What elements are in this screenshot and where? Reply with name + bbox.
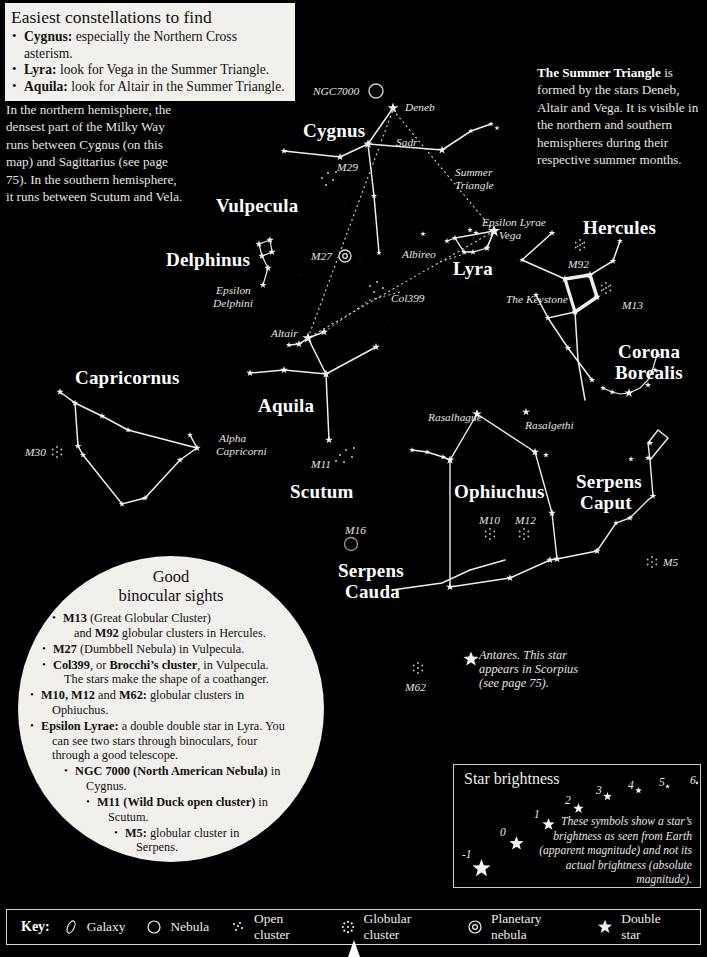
magnitude-star-4: [633, 785, 644, 796]
constellation-name-aquila: Aquila: [258, 395, 314, 416]
magnitude-star-2: [571, 801, 586, 816]
constellation-name-cygnus: Cygnus: [303, 120, 365, 141]
key-item-globular-cluster: Globular cluster: [339, 911, 446, 943]
magnitude-star-6: [693, 779, 701, 787]
magnitude-star-1: [540, 816, 557, 833]
star-label-epsilon: Epsilon: [216, 284, 251, 296]
key-item-open-cluster: Open cluster: [229, 911, 319, 943]
binocular-sights-list: M13 (Great Globular Cluster)and M92 glob…: [18, 611, 324, 855]
key-item-label: Double star: [621, 911, 680, 943]
star-label-rasalgethi: Rasalgethi: [525, 419, 574, 431]
galaxy-icon: [62, 918, 80, 936]
info-box-item-1: Lyra: look for Vega in the Summer Triang…: [11, 62, 289, 79]
magnitude-star-0: [507, 834, 526, 853]
constellation-name-scutum: Scutum: [290, 481, 354, 502]
brightness-title: Star brightness: [464, 770, 560, 788]
easiest-constellations-box: Easiest constellations to find Cygnus: e…: [4, 2, 296, 102]
constellation-name-lyra: Lyra: [453, 258, 493, 279]
open-cluster-icon: [229, 918, 247, 936]
binocular-item-1: M27 (Dumbbell Nebula) in Vulpecula.: [42, 642, 312, 657]
constellation-name-delphinus: Delphinus: [166, 249, 250, 270]
star-label-m92: M92: [568, 258, 589, 270]
star-label-ngc7000: NGC7000: [313, 85, 359, 97]
constellation-name-ophiuchus: Ophiuchus: [454, 481, 545, 502]
star-label-m29: M29: [337, 161, 358, 173]
circle-title-line1: Good: [18, 568, 324, 587]
globular-cluster-icon: [339, 918, 357, 936]
magnitude-label-1: 1: [534, 808, 540, 820]
constellation-name-borealis: Borealis: [615, 362, 683, 383]
brightness-note: These symbols show a star’s brightness a…: [534, 815, 692, 888]
circle-title: Good binocular sights: [18, 556, 324, 605]
binocular-item-0: M13 (Great Globular Cluster)and M92 glob…: [52, 611, 312, 640]
key-item-planetary-nebula: Planetary nebula: [466, 911, 576, 943]
constellation-name-capricornus: Capricornus: [75, 367, 180, 388]
star-label-m27: M27: [311, 250, 332, 262]
key-item-label: Open cluster: [254, 911, 319, 943]
good-binocular-sights-circle: Good binocular sights M13 (Great Globula…: [18, 556, 324, 862]
magnitude-star-5: [663, 782, 672, 791]
info-box-item-0: Cygnus: especially the Northern Cross as…: [11, 29, 289, 62]
constellation-name-cauda: Cauda: [345, 581, 400, 602]
star-label-delphini: Delphini: [213, 297, 253, 309]
star-label-vega: Vega: [499, 229, 521, 241]
star-label-altair: Altair: [271, 327, 298, 339]
star-label-summer: Summer: [455, 166, 492, 178]
circle-title-line2: binocular sights: [18, 587, 324, 606]
info-box-list: Cygnus: especially the Northern Cross as…: [11, 29, 289, 95]
constellation-name-hercules: Hercules: [583, 217, 656, 238]
milky-way-note: In the northern hemisphere, the densest …: [6, 101, 184, 205]
star-label-sadr: Sadr: [396, 136, 418, 148]
summer-triangle-note: The Summer Triangle is formed by the sta…: [537, 64, 705, 168]
magnitude-star-3: [601, 790, 614, 803]
star-label-col399: Col399: [391, 292, 425, 304]
constellation-name-caput: Caput: [580, 492, 632, 513]
key-items: GalaxyNebulaOpen clusterGlobular cluster…: [62, 911, 700, 943]
key-item-label: Planetary nebula: [491, 911, 576, 943]
binocular-item-7: M5: globular cluster inSerpens.: [114, 826, 312, 855]
binocular-item-5: NGC 7000 (North American Nebula) inCygnu…: [64, 764, 312, 793]
key-item-nebula: Nebula: [145, 918, 209, 936]
info-box-item-2: Aquila: look for Altair in the Summer Tr…: [11, 79, 289, 96]
binocular-item-2: Col399, or Brocchi’s cluster, in Vulpecu…: [42, 658, 312, 687]
key-item-label: Globular cluster: [364, 911, 446, 943]
key-item-label: Nebula: [170, 919, 209, 935]
info-box-title: Easiest constellations to find: [11, 7, 289, 27]
binocular-item-6: M11 (Wild Duck open cluster) inScutum.: [86, 795, 312, 824]
star-label-m10: M10: [479, 514, 500, 526]
double-star-icon: [596, 918, 614, 936]
star-label-triangle: Triangle: [455, 179, 494, 191]
key-label: Key:: [21, 919, 50, 935]
magnitude-label-0: 0: [500, 826, 506, 838]
key-item-double-star: Double star: [596, 911, 680, 943]
magnitude-star-minus1: [470, 857, 493, 880]
nebula-icon: [145, 918, 163, 936]
bottom-pointer-icon: [348, 940, 360, 957]
star-label-m30: M30: [25, 446, 46, 458]
magnitude-label-2: 2: [565, 794, 571, 806]
star-label-m12: M12: [515, 514, 536, 526]
key-item-galaxy: Galaxy: [62, 918, 126, 936]
star-label-rasalhague: Rasalhague: [428, 411, 482, 423]
star-label-m11: M11: [311, 458, 331, 470]
constellation-name-serpens: Serpens: [338, 560, 404, 581]
planetary-nebula-icon: [466, 918, 484, 936]
star-label-epsilonlyrae: Epsilon Lyrae: [482, 216, 546, 228]
antares-note: Antares. This starappears in Scorpius(se…: [479, 648, 599, 690]
star-label-m5: M5: [663, 556, 678, 568]
star-label-deneb: Deneb: [405, 101, 435, 113]
key-item-label: Galaxy: [87, 919, 126, 935]
binocular-item-4: Epsilon Lyrae: a double double star in L…: [30, 719, 312, 763]
constellation-name-corona: Corona: [618, 341, 680, 362]
constellation-name-vulpecula: Vulpecula: [216, 195, 298, 216]
star-label-m62: M62: [405, 681, 426, 693]
star-label-m13: M13: [622, 299, 643, 311]
star-label-thekeystone: The Keystone: [506, 293, 568, 305]
constellation-name-serpens: Serpens: [576, 471, 642, 492]
star-label-albireo: Albireo: [402, 248, 436, 260]
star-label-capricorni: Capricorni: [216, 445, 267, 457]
double-star-icon-antares: [462, 650, 480, 668]
star-label-m16: M16: [345, 524, 366, 536]
star-label-alpha: Alpha: [219, 432, 246, 444]
binocular-item-3: M10, M12 and M62: globular clusters inOp…: [30, 688, 312, 717]
